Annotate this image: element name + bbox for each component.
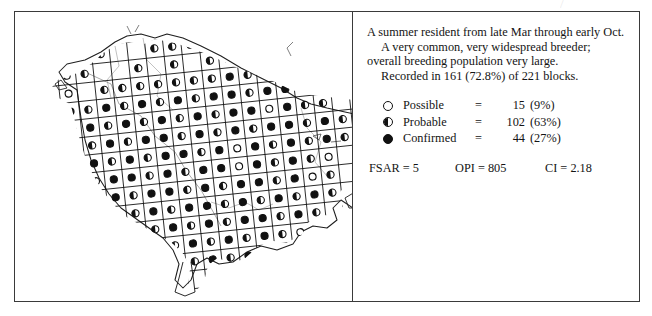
- possible-circle-icon: [383, 101, 403, 111]
- stat-ci: CI = 2.18: [545, 161, 625, 176]
- legend-count-possible: 15: [493, 97, 530, 114]
- legend-count-probable: 102: [493, 114, 530, 131]
- spacer-before-legend: [367, 83, 625, 97]
- legend-equals-possible: =: [475, 97, 493, 114]
- legend-row-confirmed: Confirmed = 44 (27%): [383, 130, 625, 147]
- legend-count-confirmed: 44: [493, 130, 530, 147]
- distribution-map-pane[interactable]: [15, 12, 353, 301]
- legend-equals-confirmed: =: [475, 130, 493, 147]
- species-account-plate: A summer resident from late Mar through …: [14, 11, 640, 302]
- scan-bleed-top: /: [0, 0, 652, 9]
- legend-percent-confirmed: (27%): [530, 130, 578, 147]
- legend-label-possible: Possible: [403, 97, 475, 114]
- scan-bleed-slash: /: [560, 0, 564, 9]
- legend-equals-probable: =: [475, 114, 493, 131]
- probable-half-circle-icon: [383, 117, 403, 127]
- statistics-line: FSAR = 5 OPI = 805 CI = 2.18: [369, 161, 625, 176]
- legend-row-probable: Probable = 102 (63%): [383, 114, 625, 131]
- species-account-text-pane: A summer resident from late Mar through …: [353, 12, 639, 301]
- account-paragraph-season: A summer resident from late Mar through …: [367, 25, 625, 40]
- confirmed-solid-circle-icon: [383, 134, 403, 144]
- scan-bleed-bottom: [0, 306, 652, 316]
- legend-label-confirmed: Confirmed: [403, 130, 475, 147]
- stat-fsar: FSAR = 5: [369, 161, 455, 176]
- legend-row-possible: Possible = 15 (9%): [383, 97, 625, 114]
- account-paragraph-abundance: A very common, very widespread breeder; …: [367, 40, 625, 69]
- distribution-map-svg[interactable]: [15, 12, 353, 301]
- stat-opi: OPI = 805: [455, 161, 545, 176]
- spacer-before-stats: [367, 147, 625, 161]
- breeding-status-legend: Possible = 15 (9%) Probable = 102 (63%) …: [383, 97, 625, 147]
- block-symbols: [43, 26, 353, 279]
- legend-percent-possible: (9%): [530, 97, 578, 114]
- legend-label-probable: Probable: [403, 114, 475, 131]
- account-paragraph-blocks: Recorded in 161 (72.8%) of 221 blocks.: [367, 69, 625, 84]
- legend-percent-probable: (63%): [530, 114, 578, 131]
- survey-block-grid[interactable]: [15, 12, 353, 301]
